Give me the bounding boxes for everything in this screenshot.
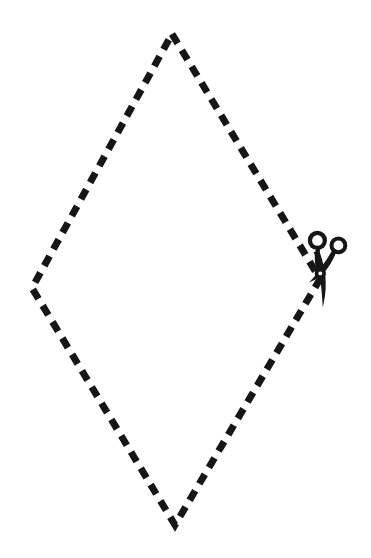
figure-canvas: Dashed diamond cutting guide with scisso…	[0, 0, 371, 558]
scissors-right-ring-hole	[334, 241, 344, 251]
cut-line-group	[32, 34, 320, 525]
dashed-diamond-outline	[32, 34, 320, 525]
diamond-cutout-diagram: Dashed diamond cutting guide with scisso…	[0, 0, 371, 558]
scissors-left-ring-hole	[312, 235, 323, 246]
scissors-pivot-hole	[318, 272, 322, 276]
